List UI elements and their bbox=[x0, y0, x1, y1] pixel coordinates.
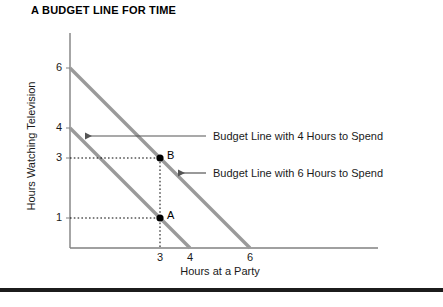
plot-area bbox=[0, 0, 443, 307]
y-tick-label-1: 1 bbox=[48, 211, 62, 223]
x-tick-label-4: 4 bbox=[180, 251, 200, 263]
bottom-divider bbox=[0, 288, 443, 292]
data-point-label-b: B bbox=[167, 149, 174, 161]
data-point-a bbox=[156, 214, 163, 221]
y-axis-label: Hours Watching Television bbox=[25, 66, 37, 226]
y-tick-label-3: 3 bbox=[48, 151, 62, 163]
y-tick-label-4: 4 bbox=[48, 121, 62, 133]
data-point-b bbox=[156, 154, 163, 161]
annotation-label-6-hours: Budget Line with 6 Hours to Spend bbox=[213, 167, 383, 179]
chart-figure: A BUDGET LINE FOR TIME bbox=[0, 0, 443, 307]
budget-line-4-hours bbox=[70, 128, 190, 248]
data-point-label-a: A bbox=[167, 209, 174, 221]
x-tick-label-3: 3 bbox=[150, 251, 170, 263]
annotation-label-4-hours: Budget Line with 4 Hours to Spend bbox=[213, 130, 383, 142]
x-tick-label-6: 6 bbox=[240, 251, 260, 263]
x-axis-label: Hours at a Party bbox=[130, 265, 310, 277]
y-tick-label-6: 6 bbox=[48, 61, 62, 73]
